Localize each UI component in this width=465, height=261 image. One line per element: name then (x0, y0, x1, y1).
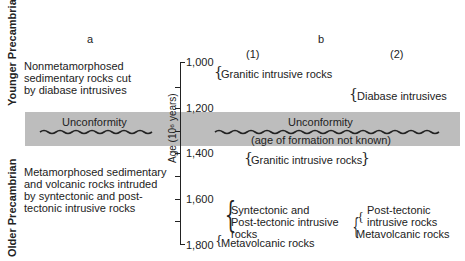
col1-granitic-lower: Granitic intrusive rocks (251, 154, 362, 166)
col2-posttectonic: Post-tectonic intrusive rocks (367, 204, 437, 228)
column-a-header: a (87, 33, 93, 45)
column-a-unconformity-label: Unconformity (62, 116, 127, 128)
text-line: sedimentary rocks cut (24, 72, 131, 84)
axis-tick-label: 1,000 (186, 56, 214, 68)
axis-tick (180, 244, 185, 245)
axis-tick-label: 1,600 (186, 193, 214, 205)
col1-metavolcanic: Metavolcanic rocks (221, 237, 315, 249)
text-line: Metamorphosed sedimentary (24, 166, 166, 178)
column-b-unconformity-note: (age of formation not known) (251, 134, 391, 146)
axis-tick (180, 62, 185, 63)
era-label-older: Older Precambrian (6, 159, 18, 257)
col1-syntectonic: Syntectonic and Post-tectonic intrusive … (231, 204, 339, 240)
axis-tick (175, 199, 180, 200)
text-line: intrusive rocks (367, 216, 437, 228)
axis-tick (175, 87, 180, 88)
axis-tick-label: 1,400 (186, 147, 214, 159)
age-axis-line (180, 62, 181, 245)
col2-metavolcanic: Metavolcanic rocks (356, 228, 450, 240)
column-a-wavy-line (40, 128, 155, 136)
text-line: Post-tectonic (367, 204, 437, 216)
axis-tick (175, 176, 180, 177)
text-line: by syntectonic and post- (24, 190, 166, 202)
axis-tick-label: 1,800 (186, 239, 214, 251)
column-a-upper-description: Nonmetamorphosed sedimentary rocks cut b… (24, 60, 131, 96)
text-line: Syntectonic and (231, 204, 339, 216)
text-line: and volcanic rocks intruded (24, 178, 166, 190)
age-axis-label: Age (10⁶ years) (167, 93, 178, 163)
column-b-header: b (318, 33, 324, 45)
text-line: by diabase intrusives (24, 84, 131, 96)
col2-diabase: Diabase intrusives (357, 90, 447, 102)
column-b-unconformity-label: Unconformity (288, 116, 353, 128)
column-b1-header: (1) (246, 48, 259, 60)
column-b2-header: (2) (390, 48, 403, 60)
era-label-younger: Younger Precambrian (6, 0, 18, 106)
column-a-lower-description: Metamorphosed sedimentary and volcanic r… (24, 166, 166, 214)
brace-icon: } (361, 150, 370, 166)
col1-granitic-upper: Granitic intrusive rocks (221, 68, 332, 80)
axis-tick (175, 221, 180, 222)
axis-tick-label: 1,200 (186, 102, 214, 114)
text-line: Nonmetamorphosed (24, 60, 131, 72)
text-line: Post-tectonic intrusive (231, 216, 339, 228)
text-line: tectonic intrusive rocks (24, 202, 166, 214)
